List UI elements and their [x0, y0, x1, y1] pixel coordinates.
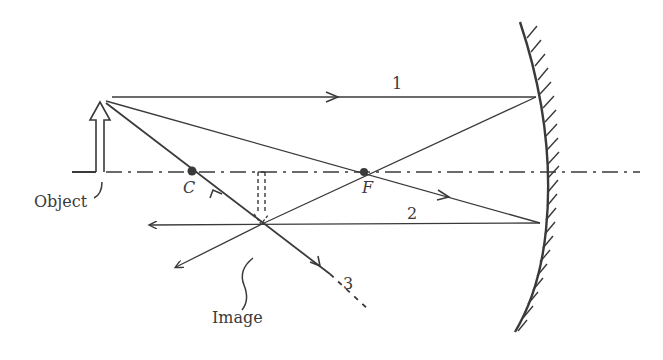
diagram-canvas [0, 0, 663, 360]
mirror-hatching [518, 26, 559, 331]
ray-1 [112, 92, 536, 267]
concave-mirror [515, 22, 559, 332]
image-leader-line [242, 258, 253, 310]
focal-point-label: F [362, 180, 373, 196]
object-arrow [90, 102, 110, 172]
ray-3 [106, 103, 370, 311]
object-label: Object [34, 194, 87, 210]
image-label: Image [212, 310, 263, 326]
center-of-curvature-point [188, 167, 197, 176]
image-arrow [254, 172, 269, 224]
object-leader-line [94, 182, 102, 198]
center-of-curvature-label: C [183, 180, 195, 196]
focal-point [360, 168, 368, 176]
ray-2 [106, 101, 540, 225]
ray-3-label: 3 [343, 276, 353, 292]
ray-diagram: Object Image C F 1 2 3 [0, 0, 663, 360]
ray-2-label: 2 [407, 206, 417, 222]
ray-1-label: 1 [392, 76, 402, 92]
